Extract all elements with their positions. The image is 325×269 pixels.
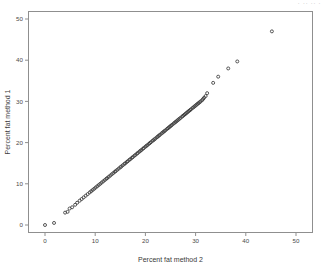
scatter-point <box>212 81 215 84</box>
y-tick-label: 50 <box>16 15 23 22</box>
x-tick-label: 10 <box>92 237 99 244</box>
plot-frame <box>29 12 313 233</box>
x-axis-tick-labels: 01020304050 <box>43 237 300 244</box>
y-tick-label: 40 <box>16 56 23 63</box>
x-tick-label: 20 <box>142 237 149 244</box>
scatter-point <box>44 224 47 227</box>
scatter-point <box>53 221 56 224</box>
scatter-points <box>44 30 274 227</box>
x-tick-label: 40 <box>242 237 249 244</box>
y-tick-label: 10 <box>16 180 23 187</box>
scatter-point <box>217 75 220 78</box>
x-tick-label: 0 <box>43 237 47 244</box>
scatter-point <box>236 60 239 63</box>
scatter-point <box>206 92 209 95</box>
y-axis-title: Percent fat method 1 <box>4 89 11 154</box>
plot-canvas: 01020304050 01020304050 Percent fat meth… <box>0 0 325 269</box>
y-tick-label: 0 <box>20 221 24 228</box>
y-tick-label: 30 <box>16 98 23 105</box>
scatter-plot-figure: 01020304050 01020304050 Percent fat meth… <box>0 0 325 269</box>
y-axis-tick-labels: 01020304050 <box>16 15 23 228</box>
scatter-point <box>270 30 273 33</box>
scatter-point <box>227 67 230 70</box>
y-axis-ticks <box>25 19 29 225</box>
x-tick-label: 30 <box>192 237 199 244</box>
x-tick-label: 50 <box>293 237 300 244</box>
x-axis-title: Percent fat method 2 <box>138 256 203 263</box>
y-tick-label: 20 <box>16 139 23 146</box>
x-axis-ticks <box>45 233 296 237</box>
